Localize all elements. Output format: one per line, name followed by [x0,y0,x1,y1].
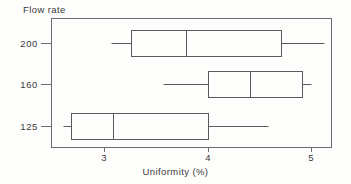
y-tick-label-200: 200 [4,38,38,49]
x-tick-label-5: 5 [301,152,321,163]
y-tick-label-160: 160 [4,79,38,90]
boxplot-figure: Flow rate 200 160 125 3 4 5 Uniformity (… [0,0,351,184]
box-125 [72,114,209,140]
y-tick-label-125: 125 [4,121,38,132]
x-tick-label-4: 4 [198,152,218,163]
box-160 [209,72,303,98]
boxplot-200 [112,31,325,57]
x-tick-label-3: 3 [94,152,114,163]
axes-frame [52,19,332,148]
box-200 [132,31,282,57]
x-axis-title: Uniformity (%) [0,166,351,177]
boxplot-125 [64,114,269,140]
plot-canvas [0,0,351,184]
boxplot-160 [164,72,312,98]
